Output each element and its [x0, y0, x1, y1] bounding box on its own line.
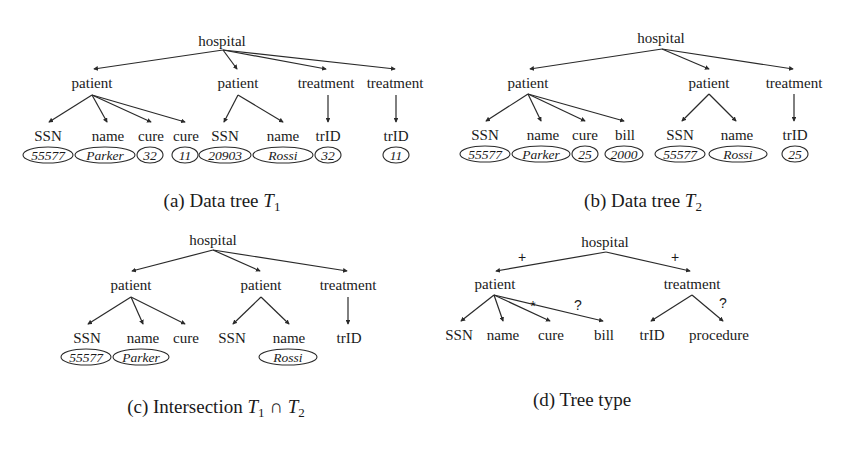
edges-level1 — [486, 94, 794, 121]
panel-a-data-tree-t1: hospital patient patient treatment treat… — [23, 33, 424, 214]
node-trid: trID — [384, 128, 409, 144]
panel-b-data-tree-t2: hospital patient patient treatment SSN n… — [460, 30, 823, 214]
caption-a: (a) Data tree T1 — [164, 190, 281, 214]
node-procedure: procedure — [689, 327, 749, 343]
node-bill: bill — [594, 327, 614, 343]
node-patient: patient — [241, 277, 283, 293]
node-patient: patient — [689, 75, 731, 91]
node-patient: patient — [72, 75, 114, 91]
node-trid: trID — [783, 127, 808, 143]
edges-root — [530, 49, 793, 69]
value-ssn: 55577 — [663, 147, 698, 162]
node-treatment: treatment — [664, 276, 721, 292]
value-ssn: 55577 — [69, 350, 104, 365]
node-ssn: SSN — [471, 127, 499, 143]
node-trid: trID — [337, 330, 362, 346]
node-ssn: SSN — [666, 127, 694, 143]
node-name: name — [487, 327, 520, 343]
node-cure: cure — [572, 127, 598, 143]
node-bill: bill — [615, 127, 635, 143]
node-patient: patient — [475, 276, 517, 292]
node-cure: cure — [538, 327, 564, 343]
node-trid: trID — [316, 128, 341, 144]
edge-mark-star: * — [530, 298, 536, 314]
edge-mark-optional: ? — [574, 297, 582, 313]
value-name: Rossi — [272, 350, 303, 365]
value-trid: 25 — [788, 147, 802, 162]
edges-level1 — [88, 297, 348, 324]
node-name: name — [127, 330, 160, 346]
edge-mark-optional: ? — [719, 295, 727, 311]
node-ssn: SSN — [218, 330, 246, 346]
value-cure: 32 — [142, 148, 157, 163]
node-name: name — [273, 330, 306, 346]
node-hospital: hospital — [637, 30, 685, 46]
value-name: Rossi — [267, 148, 298, 163]
value-bill: 2000 — [611, 147, 638, 162]
node-ssn: SSN — [445, 327, 473, 343]
value-cure: 11 — [179, 148, 192, 163]
value-cure: 25 — [578, 147, 592, 162]
panel-c-intersection: hospital patient patient treatment SSN n… — [61, 232, 377, 420]
value-ssn: 55577 — [468, 147, 503, 162]
node-name: name — [267, 128, 300, 144]
edges-level1 — [461, 295, 723, 321]
node-ssn: SSN — [211, 128, 239, 144]
edge-mark-plus: + — [671, 249, 679, 265]
value-name: Parker — [121, 350, 160, 365]
node-cure: cure — [138, 128, 164, 144]
value-ssn: 55577 — [31, 148, 66, 163]
node-cure: cure — [173, 330, 199, 346]
caption-b: (b) Data tree T2 — [584, 190, 702, 214]
edges-level1 — [49, 95, 396, 122]
caption-d: (d) Tree type — [533, 389, 631, 411]
node-patient: patient — [111, 277, 153, 293]
figure-canvas: hospital patient patient treatment treat… — [0, 0, 851, 449]
node-hospital: hospital — [198, 33, 246, 49]
value-trid: 11 — [390, 148, 403, 163]
edges-root — [132, 250, 347, 271]
panel-d-tree-type: hospital + + patient treatment * ? ? SSN… — [445, 234, 749, 411]
node-cure: cure — [173, 128, 199, 144]
caption-c: (c) Intersection T1 ∩ T2 — [127, 396, 305, 420]
node-trid: trID — [640, 327, 665, 343]
node-name: name — [721, 127, 754, 143]
node-patient: patient — [218, 75, 260, 91]
node-name: name — [92, 128, 125, 144]
node-ssn: SSN — [73, 330, 101, 346]
node-treatment: treatment — [766, 75, 823, 91]
value-name: Parker — [85, 148, 124, 163]
node-treatment: treatment — [367, 75, 424, 91]
node-name: name — [527, 127, 560, 143]
node-hospital: hospital — [581, 234, 629, 250]
value-name: Rossi — [722, 147, 753, 162]
value-ssn: 20903 — [208, 148, 242, 163]
node-ssn: SSN — [34, 128, 62, 144]
node-treatment: treatment — [320, 277, 377, 293]
edge-mark-plus: + — [518, 249, 526, 265]
node-patient: patient — [508, 75, 550, 91]
value-name: Parker — [521, 147, 560, 162]
node-treatment: treatment — [298, 75, 355, 91]
value-trid: 32 — [320, 148, 335, 163]
edges-root — [94, 50, 395, 69]
node-hospital: hospital — [189, 232, 237, 248]
